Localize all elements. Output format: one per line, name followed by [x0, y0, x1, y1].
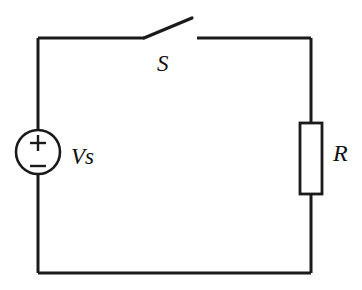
switch-label: S [157, 52, 169, 75]
switch-blade-icon [144, 18, 192, 38]
resistor-symbol [300, 123, 322, 194]
voltage-source-symbol [16, 130, 60, 174]
resistor-label: R [333, 141, 348, 165]
circuit-diagram-figure: Vs S R [0, 0, 362, 290]
resistor-box-icon [300, 123, 322, 194]
switch-symbol [144, 18, 192, 38]
circuit-schematic-canvas [0, 0, 362, 290]
voltage-source-label: Vs [71, 145, 94, 168]
